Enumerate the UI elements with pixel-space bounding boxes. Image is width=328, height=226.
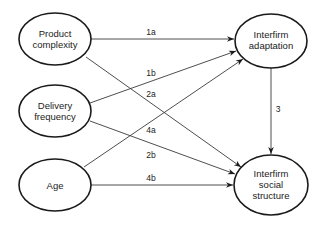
node-age: Age bbox=[19, 159, 91, 211]
node-label-line: frequency bbox=[34, 111, 76, 122]
node-label-line: Interfirm bbox=[254, 168, 289, 179]
node-label-line: adaptation bbox=[249, 40, 293, 51]
node-label-line: structure bbox=[253, 190, 290, 201]
edge-label-1b: 1b bbox=[146, 68, 156, 78]
edge-2a bbox=[86, 57, 241, 167]
edge-label-2b: 2b bbox=[146, 150, 156, 160]
edge-label-4a: 4a bbox=[146, 125, 156, 135]
node-label-line: complexity bbox=[33, 39, 78, 50]
node-label-line: Delivery bbox=[38, 100, 73, 111]
node-label-line: social bbox=[259, 179, 283, 190]
edge-label-3: 3 bbox=[276, 104, 281, 114]
path-diagram: 1a 1b 2a 2b 3 4a 4b Product complexity D… bbox=[0, 0, 328, 226]
node-interfirm-adaptation: Interfirm adaptation bbox=[235, 14, 307, 68]
node-product-complexity: Product complexity bbox=[19, 13, 91, 65]
node-interfirm-social-structure: Interfirm social structure bbox=[234, 155, 308, 215]
node-delivery-frequency: Delivery frequency bbox=[19, 85, 91, 137]
edge-4a bbox=[84, 59, 243, 167]
edge-label-2a: 2a bbox=[146, 89, 156, 99]
node-label-line: Age bbox=[47, 180, 64, 191]
edge-label-1a: 1a bbox=[146, 27, 156, 37]
edge-1b bbox=[90, 51, 236, 103]
node-label-line: Interfirm bbox=[254, 29, 289, 40]
edge-label-4b: 4b bbox=[146, 173, 156, 183]
node-label-line: Product bbox=[39, 28, 72, 39]
